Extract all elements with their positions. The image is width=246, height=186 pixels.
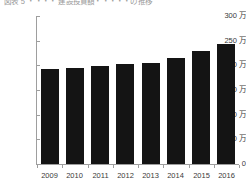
bar-chart-figure: 図表 5 ・・・・ 建設投資額・・・・・の推移 050 万100 万150 万2… [0, 0, 246, 186]
x-axis-tick [88, 165, 89, 168]
x-axis-tick-label: 2009 [37, 171, 62, 180]
y-axis-tick [36, 16, 40, 17]
bar-2014 [167, 58, 185, 164]
y-axis-tick [36, 90, 40, 91]
x-axis-tick-label: 2013 [138, 171, 163, 180]
x-axis-tick [239, 165, 240, 168]
x-axis-tick-label: 2016 [214, 171, 239, 180]
x-axis-tick-label: 2015 [189, 171, 214, 180]
bar-2016 [217, 44, 235, 164]
x-axis-tick-label: 2014 [163, 171, 188, 180]
chart-title: 図表 5 ・・・・ 建設投資額・・・・・の推移 [4, 0, 246, 7]
y-axis-tick [36, 41, 40, 42]
bar-2010 [66, 68, 84, 164]
x-axis-tick-label: 2012 [113, 171, 138, 180]
x-axis-tick-label: 2010 [62, 171, 87, 180]
x-axis-tick-label: 2011 [88, 171, 113, 180]
bar-2013 [142, 63, 160, 164]
x-axis-tick [163, 165, 164, 168]
x-axis-tick [189, 165, 190, 168]
y-axis-tick-label: 300 万 [213, 12, 246, 20]
x-axis-tick [214, 165, 215, 168]
y-axis-tick [36, 65, 40, 66]
bar-2015 [192, 51, 210, 164]
bar-2009 [41, 69, 59, 164]
y-axis-tick [36, 139, 40, 140]
x-axis-tick [113, 165, 114, 168]
bar-2011 [91, 66, 109, 164]
x-axis-tick [62, 165, 63, 168]
x-axis-tick [37, 165, 38, 168]
x-axis-tick [138, 165, 139, 168]
bar-2012 [116, 64, 134, 164]
y-axis-tick [36, 115, 40, 116]
